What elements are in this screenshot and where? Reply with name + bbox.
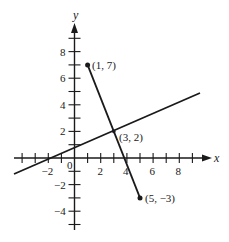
x-tick-label: 6 xyxy=(150,165,156,177)
line-through-3-2 xyxy=(14,93,200,174)
point-label-3-2: (3, 2) xyxy=(119,131,143,144)
coordinate-graph: x −2 0 2 4 6 8 y 8 6 4 xyxy=(0,0,229,242)
point-5-neg3 xyxy=(138,195,143,200)
y-tick-label: 4 xyxy=(60,99,66,111)
point-3-2 xyxy=(112,130,116,134)
point-1-7 xyxy=(85,62,90,67)
y-tick-label: 6 xyxy=(60,72,66,84)
y-axis-label: y xyxy=(72,8,79,22)
y-tick-label: 2 xyxy=(60,125,66,137)
y-axis: y 8 6 4 2 −2 −4 xyxy=(54,8,81,230)
x-axis-label: x xyxy=(213,151,220,165)
point-label-1-7: (1, 7) xyxy=(92,59,116,72)
x-tick-label: 2 xyxy=(98,165,104,177)
y-tick-label: −2 xyxy=(54,179,66,191)
point-label-5-neg3: (5, −3) xyxy=(145,192,175,205)
y-axis-arrow-icon xyxy=(71,23,78,33)
origin-label: 0 xyxy=(67,159,73,171)
x-tick-label: −2 xyxy=(42,165,54,177)
y-tick-label: −4 xyxy=(54,205,66,217)
y-tick-label: 8 xyxy=(60,46,66,58)
x-tick-label: 8 xyxy=(176,165,182,177)
x-axis-arrow-icon xyxy=(202,155,212,162)
x-axis: x −2 0 2 4 6 8 xyxy=(14,151,220,177)
